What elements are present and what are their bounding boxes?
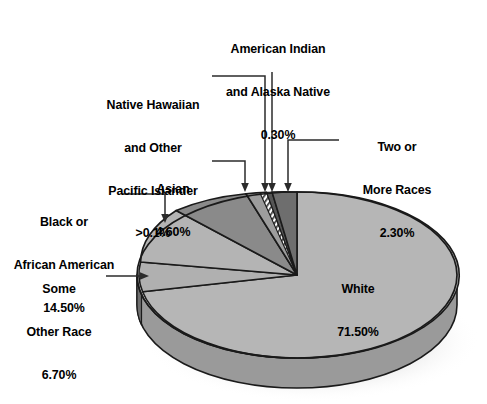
label-black-african-american-line1: Black or bbox=[6, 215, 122, 229]
label-two-or-more-line1: Two or bbox=[341, 140, 453, 154]
label-american-indian-percent: 0.30% bbox=[196, 128, 360, 142]
label-two-or-more-percent: 2.30% bbox=[341, 226, 453, 240]
label-native-hawaiian-line1: Native Hawaiian bbox=[94, 98, 212, 112]
label-some-other-race-line1: Some bbox=[12, 282, 106, 296]
label-asian-line1: Asian bbox=[136, 182, 210, 196]
label-asian: Asian 4.60% bbox=[136, 154, 210, 268]
label-asian-percent: 4.60% bbox=[136, 225, 210, 239]
pie-chart-figure: American Indian and Alaska Native 0.30% … bbox=[0, 0, 487, 404]
label-two-or-more-races: Two or More Races 2.30% bbox=[341, 112, 453, 268]
label-american-indian-alaska-native: American Indian and Alaska Native 0.30% bbox=[196, 14, 360, 170]
arrowhead-asian bbox=[241, 183, 249, 192]
label-american-indian-line2: and Alaska Native bbox=[196, 85, 360, 99]
label-american-indian-line1: American Indian bbox=[196, 42, 360, 56]
label-some-other-race: Some Other Race 6.70% bbox=[12, 254, 106, 404]
arrowhead-american-indian bbox=[268, 183, 276, 192]
arrowhead-native-hawaiian bbox=[261, 183, 269, 192]
arrowhead-two-or-more-races bbox=[284, 183, 292, 192]
label-white-line1: White bbox=[312, 282, 404, 296]
label-white-percent: 71.50% bbox=[312, 325, 404, 339]
label-some-other-race-percent: 6.70% bbox=[12, 368, 106, 382]
label-some-other-race-line2: Other Race bbox=[12, 325, 106, 339]
label-two-or-more-line2: More Races bbox=[341, 183, 453, 197]
label-white: White 71.50% bbox=[312, 254, 404, 368]
